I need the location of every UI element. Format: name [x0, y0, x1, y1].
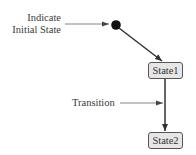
initial-annotation-line1: Indicate: [12, 12, 61, 24]
transition-annotation: Transition: [72, 97, 115, 109]
initial-annotation-line2: Initial State: [12, 24, 61, 36]
edge-initial-to-state1: [119, 28, 162, 61]
state-node-state1: State1: [148, 62, 183, 79]
state-node-state2: State2: [148, 132, 183, 149]
initial-state-annotation: Indicate Initial State: [12, 12, 61, 36]
